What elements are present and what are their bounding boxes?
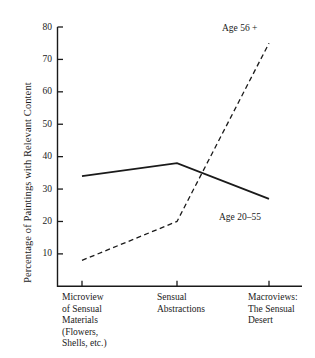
x-axis-category-label-1: Sensual Abstractions [157, 292, 205, 315]
chart-figure: Percentage of Paintings with Relevant Co… [0, 0, 315, 358]
y-tick-label: 20 [26, 216, 52, 226]
series-label-age-20-55: Age 20–55 [219, 212, 261, 222]
series-line-1 [82, 43, 269, 260]
series-label-age-56-plus: Age 56 + [222, 23, 257, 33]
y-tick-label: 50 [26, 119, 52, 129]
series-line-0 [82, 163, 269, 199]
y-tick-label: 80 [26, 22, 52, 32]
y-tick-label: 30 [26, 184, 52, 194]
x-axis-category-label-0: Microview of Sensual Materials (Flowers,… [62, 292, 107, 350]
x-axis-ticks [82, 281, 269, 287]
y-tick-label: 70 [26, 54, 52, 64]
y-tick-label: 40 [26, 151, 52, 161]
y-tick-label: 10 [26, 248, 52, 258]
x-axis-category-label-2: Macroviews: The Sensual Desert [248, 292, 298, 327]
y-tick-label: 60 [26, 86, 52, 96]
y-axis-ticks [58, 27, 64, 254]
series-lines [82, 43, 269, 260]
